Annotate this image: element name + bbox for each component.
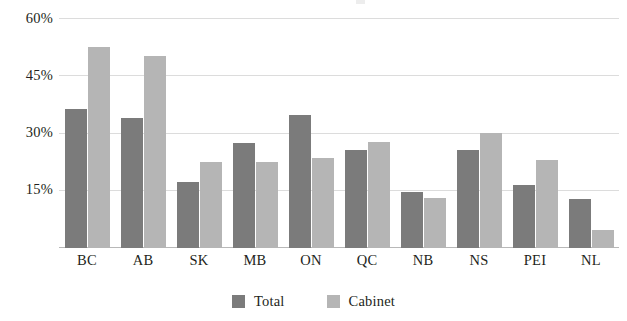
bar-nb-total <box>401 192 423 248</box>
x-tick-label-ns: NS <box>451 253 507 268</box>
y-tick-label: 60% <box>7 11 53 26</box>
bar-ns-total <box>457 150 479 248</box>
x-tick-label-qc: QC <box>339 253 395 268</box>
bar-qc-total <box>345 150 367 248</box>
legend-label-total: Total <box>254 294 285 309</box>
bar-ab-cabinet <box>144 56 166 248</box>
x-tick-label-nl: NL <box>563 253 619 268</box>
x-tick-label-ab: AB <box>115 253 171 268</box>
bar-pei-cabinet <box>536 160 558 248</box>
chart-legend: Total Cabinet <box>0 288 627 314</box>
bar-group <box>121 18 166 248</box>
bar-group <box>289 18 334 248</box>
y-tick-label: 15% <box>7 182 53 197</box>
bar-group <box>401 18 446 248</box>
x-tick-label-on: ON <box>283 253 339 268</box>
bar-mb-cabinet <box>256 162 278 248</box>
bar-bc-total <box>65 109 87 248</box>
bar-group <box>345 18 390 248</box>
y-tick-label: 30% <box>7 125 53 140</box>
scan-artifact <box>356 0 365 4</box>
bar-pei-total <box>513 185 535 248</box>
bar-chart: 60% 45% 30% 15% BCABSKMBONQCNBNSPEINL To… <box>0 0 627 321</box>
bar-group <box>233 18 278 248</box>
bar-sk-cabinet <box>200 162 222 248</box>
bar-nl-cabinet <box>592 230 614 248</box>
bar-bc-cabinet <box>88 47 110 248</box>
x-axis: BCABSKMBONQCNBNSPEINL <box>59 253 619 279</box>
bar-sk-total <box>177 182 199 248</box>
legend-label-cabinet: Cabinet <box>349 294 396 309</box>
plot-area <box>59 18 619 248</box>
bar-nb-cabinet <box>424 198 446 248</box>
bar-on-cabinet <box>312 158 334 248</box>
bar-group <box>177 18 222 248</box>
x-tick-label-bc: BC <box>59 253 115 268</box>
legend-item-total: Total <box>232 294 285 309</box>
x-tick-label-pei: PEI <box>507 253 563 268</box>
bar-on-total <box>289 115 311 248</box>
bar-ns-cabinet <box>480 133 502 248</box>
y-tick-label: 45% <box>7 68 53 83</box>
bar-group <box>569 18 614 248</box>
x-tick-label-nb: NB <box>395 253 451 268</box>
bar-group <box>513 18 558 248</box>
bar-qc-cabinet <box>368 142 390 248</box>
x-tick-label-sk: SK <box>171 253 227 268</box>
bar-group <box>65 18 110 248</box>
legend-swatch-cabinet <box>327 295 340 308</box>
bar-ab-total <box>121 118 143 248</box>
legend-swatch-total <box>232 295 245 308</box>
bar-group <box>457 18 502 248</box>
x-tick-label-mb: MB <box>227 253 283 268</box>
legend-item-cabinet: Cabinet <box>327 294 396 309</box>
bar-nl-total <box>569 199 591 248</box>
bar-mb-total <box>233 143 255 248</box>
y-axis: 60% 45% 30% 15% <box>0 0 53 321</box>
